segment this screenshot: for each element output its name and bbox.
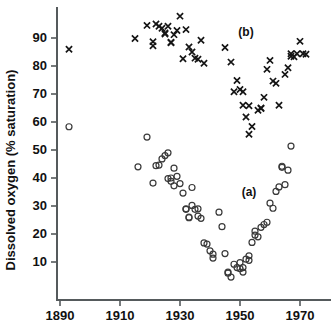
data-point-cross [297,38,303,44]
y-axis-tick-label: 80 [33,58,47,73]
data-point-cross [246,103,252,109]
data-point-cross [240,102,246,108]
data-point-circle [219,224,225,230]
data-point-cross [222,44,228,50]
data-point-circle [144,134,150,140]
data-point-cross [150,43,156,49]
data-point-circle [171,165,177,171]
data-point-circle [180,190,186,196]
y-axis-title: Dissolved oxygen (% saturation) [3,70,18,271]
data-point-circle [285,167,291,173]
x-axis-tick-label: 1970 [286,308,315,323]
data-point-cross [132,35,138,41]
data-point-circle [288,143,294,149]
data-point-cross [243,114,249,120]
data-point-cross [246,131,252,137]
data-point-cross [165,23,171,29]
data-point-circle [174,173,180,179]
y-axis-tick-label: 40 [33,170,47,185]
data-point-cross [168,40,174,46]
chart-figure: 102030405060708090 18901910193019501970 … [0,0,334,336]
data-point-circle [252,228,258,234]
y-axis-tick-label: 10 [33,254,47,269]
data-point-cross [285,65,291,71]
data-point-circle [276,184,282,190]
data-point-cross [264,66,270,72]
data-point-cross [261,94,267,100]
y-axis-tick-label: 50 [33,142,47,157]
data-point-circle [282,182,288,188]
series-label-a: (a) [242,185,257,199]
scatter-plot: 102030405060708090 18901910193019501970 … [0,0,334,336]
data-point-cross [258,105,264,111]
data-point-circle [210,255,216,261]
data-point-cross [144,22,150,28]
data-point-circle [135,164,141,170]
x-axis-tick-label: 1930 [166,308,195,323]
data-point-cross [180,56,186,62]
y-axis-tick-label: 20 [33,226,47,241]
x-axis-ticks: 18901910193019501970 [46,300,315,323]
x-axis-tick-label: 1910 [106,308,135,323]
data-point-cross [240,89,246,95]
data-point-cross [249,123,255,129]
x-axis-tick-label: 1950 [226,308,255,323]
y-axis-tick-label: 60 [33,114,47,129]
data-point-circle [216,209,222,215]
y-axis-tick-label: 90 [33,30,47,45]
data-point-cross [66,46,72,52]
series-annotations: (a)(b) [238,25,256,199]
data-point-cross [228,59,234,65]
data-point-circle [177,181,183,187]
data-point-cross [231,89,237,95]
data-point-circle [171,183,177,189]
data-point-cross [294,51,300,57]
data-point-cross [276,102,282,108]
data-point-cross [234,77,240,83]
series-label-b: (b) [238,25,253,39]
data-point-circle [66,124,72,130]
data-point-cross [201,60,207,66]
y-axis-tick-label: 30 [33,198,47,213]
series-a-points [66,124,294,280]
data-point-circle [270,205,276,211]
data-point-cross [198,37,204,43]
data-point-circle [189,185,195,191]
data-point-cross [282,71,288,77]
y-axis-tick-label: 70 [33,86,47,101]
data-point-cross [267,57,273,63]
y-axis-ticks: 102030405060708090 [33,30,57,269]
data-point-circle [150,180,156,186]
data-point-circle [222,251,228,257]
data-point-cross [183,27,189,33]
data-point-cross [177,13,183,19]
data-point-cross [273,80,279,86]
series-b-points [66,13,309,137]
data-point-circle [249,239,255,245]
x-axis-tick-label: 1890 [46,308,75,323]
